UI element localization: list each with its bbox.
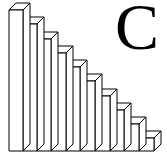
- bar-side-face: [110, 89, 117, 151]
- bar-1: [9, 3, 30, 151]
- bar-side-face: [95, 74, 102, 151]
- bar-side-face: [124, 103, 131, 151]
- bar-side-face: [66, 46, 73, 151]
- bar-side-face: [23, 3, 30, 151]
- letter-label: C: [115, 0, 159, 60]
- bar-side-face: [37, 17, 44, 151]
- bar-side-face: [80, 60, 87, 151]
- bar-front-face: [9, 10, 23, 151]
- bar-side-face: [51, 32, 58, 151]
